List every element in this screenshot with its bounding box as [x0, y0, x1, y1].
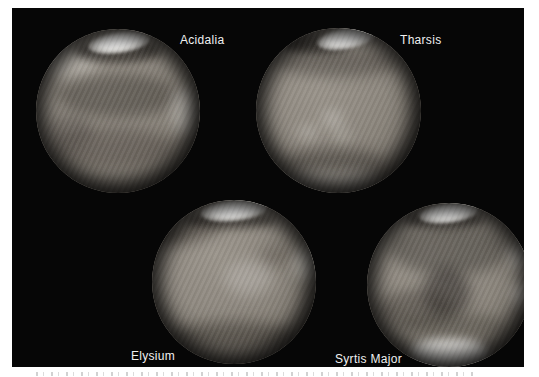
label-tharsis: Tharsis — [400, 33, 441, 47]
mars-photo-panel: Acidalia Tharsis Elysium Syrtis Major — [12, 8, 524, 367]
acidalia-limb-shading — [36, 29, 200, 193]
mars-globe-elysium — [152, 200, 316, 364]
cropped-caption-text-fragment — [36, 372, 476, 376]
elysium-limb-shading — [152, 200, 316, 364]
mars-globe-tharsis — [256, 28, 421, 193]
label-elysium: Elysium — [131, 349, 175, 363]
mars-globe-syrtis-major — [367, 203, 524, 367]
syrtis-limb-shading — [367, 203, 524, 367]
label-acidalia: Acidalia — [180, 33, 224, 47]
tharsis-limb-shading — [256, 28, 421, 193]
mars-globe-acidalia — [36, 29, 200, 193]
label-syrtis-major: Syrtis Major — [335, 352, 402, 366]
page-background: Acidalia Tharsis Elysium Syrtis Major — [0, 0, 539, 377]
